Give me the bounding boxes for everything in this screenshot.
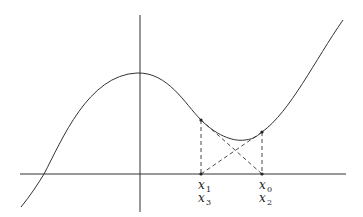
label-x2-sub: 2 [267,198,272,207]
newton-method-diagram: x 1 x 3 x 0 x 2 [0,0,363,217]
curve-point-x0 [260,130,263,133]
label-x0-base: x [259,178,266,192]
curve-point-x1 [199,118,202,121]
label-x3-base: x [198,191,205,205]
label-x0-sub: 0 [267,185,272,194]
label-x1-sub: 1 [206,185,211,194]
label-x2-base: x [259,191,266,205]
axis-point-x1 [199,172,202,175]
label-x1-base: x [198,178,205,192]
function-curve [21,20,343,207]
label-x3-sub: 3 [206,198,211,207]
axis-point-x0 [260,172,263,175]
